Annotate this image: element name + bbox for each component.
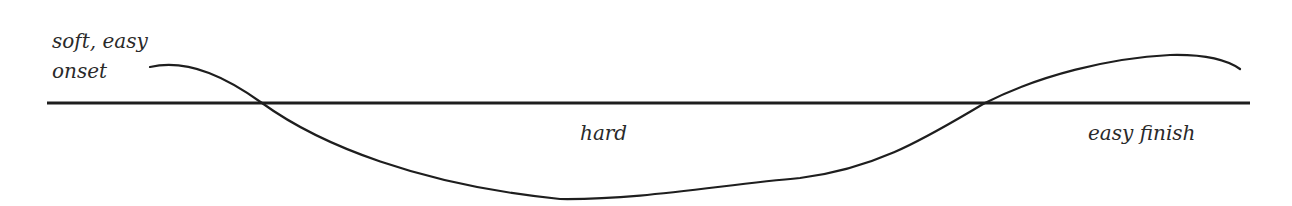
onset-label: soft, easy onset — [52, 26, 182, 86]
finish-label: easy finish — [1088, 118, 1195, 148]
contour-diagram: soft, easy onset hard easy finish — [0, 0, 1292, 206]
hard-label: hard — [580, 118, 627, 148]
pitch-curve — [150, 55, 1240, 199]
contour-graphic — [0, 0, 1292, 206]
